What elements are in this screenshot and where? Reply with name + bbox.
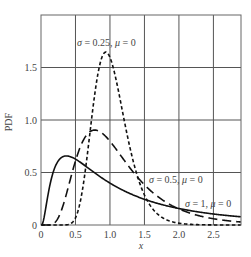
x-tick-labels: 00.51.01.52.02.5 xyxy=(39,229,220,240)
annotation-sigma-1: σ = 1, μ = 0 xyxy=(185,198,231,209)
y-tick-label: 1.0 xyxy=(25,115,38,126)
y-tick-label: 0.5 xyxy=(25,167,38,178)
curve-sigma-1 xyxy=(41,156,240,225)
annotation-sigma-025: σ = 0.25, μ = 0 xyxy=(77,37,136,48)
curve-sigma-05 xyxy=(41,130,240,225)
y-axis-label: PDF xyxy=(3,112,14,131)
x-axis-label: x xyxy=(138,240,144,251)
lognormal-pdf-chart: 00.51.01.5 00.51.01.52.02.5 PDF x σ = 0.… xyxy=(0,0,251,257)
x-tick-label: 2.0 xyxy=(173,229,186,240)
x-tick-label: 0.5 xyxy=(69,229,82,240)
y-tick-label: 0 xyxy=(32,220,37,231)
grid-lines xyxy=(41,15,241,225)
y-tick-labels: 00.51.01.5 xyxy=(25,62,38,231)
x-tick-label: 1.0 xyxy=(104,229,117,240)
y-tick-label: 1.5 xyxy=(25,62,38,73)
annotation-sigma-05: σ = 0.5, μ = 0 xyxy=(149,174,203,185)
x-tick-label: 2.5 xyxy=(207,229,220,240)
x-tick-label: 0 xyxy=(39,229,44,240)
x-tick-label: 1.5 xyxy=(138,229,151,240)
